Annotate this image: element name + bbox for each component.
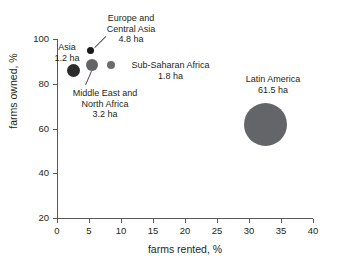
y-tick [53, 84, 57, 85]
x-tick-label: 0 [44, 226, 70, 236]
data-label-name-line: Latin America [228, 74, 318, 85]
x-tick [249, 219, 250, 223]
bubble-sub-saharan-africa[interactable] [107, 61, 115, 69]
data-label-size: 61.5 ha [228, 85, 318, 96]
x-tick-label: 30 [236, 226, 262, 236]
data-label-asia: Asia1.2 ha [44, 42, 90, 63]
bubble-chart: 10080604020 0510152025303540 Asia1.2 haE… [0, 0, 337, 270]
y-tick-label: 60 [23, 124, 49, 134]
data-label-name-line: Sub-Saharan Africa [123, 60, 218, 71]
x-tick-label: 40 [300, 226, 326, 236]
data-label-name-line: North Africa [59, 99, 151, 110]
bubble-asia[interactable] [67, 64, 80, 77]
x-tick [153, 219, 154, 223]
x-tick-label: 20 [172, 226, 198, 236]
x-tick [121, 219, 122, 223]
label-leader-line [85, 71, 92, 85]
y-tick [53, 39, 57, 40]
y-tick [53, 129, 57, 130]
x-tick-label: 5 [76, 226, 102, 236]
x-tick [57, 219, 58, 223]
y-tick [53, 173, 57, 174]
data-label-name-line: Asia [44, 42, 90, 53]
data-label-europe-and-central-asia: Europe andCentral Asia4.8 ha [94, 13, 168, 45]
y-tick-label: 20 [23, 213, 49, 223]
x-tick [89, 219, 90, 223]
x-tick-label: 35 [268, 226, 294, 236]
x-tick [281, 219, 282, 223]
data-label-sub-saharan-africa: Sub-Saharan Africa1.8 ha [123, 60, 218, 81]
data-label-size: 3.2 ha [59, 109, 151, 120]
x-tick [217, 219, 218, 223]
y-tick-label: 80 [23, 79, 49, 89]
data-label-name-line: Europe and [94, 13, 168, 24]
y-axis-title: farms owned, % [7, 31, 19, 151]
data-label-name-line: Middle East and [59, 88, 151, 99]
x-tick-label: 25 [204, 226, 230, 236]
x-tick-label: 15 [140, 226, 166, 236]
bubble-latin-america[interactable] [244, 103, 287, 146]
x-tick-label: 10 [108, 226, 134, 236]
data-label-size: 1.8 ha [123, 71, 218, 82]
y-axis-line [57, 39, 58, 219]
data-label-name-line: Central Asia [94, 24, 168, 35]
bubble-europe-and-central-asia[interactable] [87, 47, 94, 54]
x-tick [313, 219, 314, 223]
data-label-size: 4.8 ha [94, 34, 168, 45]
bubble-middle-east-and-north-africa[interactable] [86, 59, 98, 71]
x-tick [185, 219, 186, 223]
data-label-latin-america: Latin America61.5 ha [228, 74, 318, 95]
y-tick-label: 40 [23, 168, 49, 178]
x-axis-title: farms rented, % [57, 243, 313, 255]
data-label-middle-east-and-north-africa: Middle East andNorth Africa3.2 ha [59, 88, 151, 120]
data-label-size: 1.2 ha [44, 53, 90, 64]
